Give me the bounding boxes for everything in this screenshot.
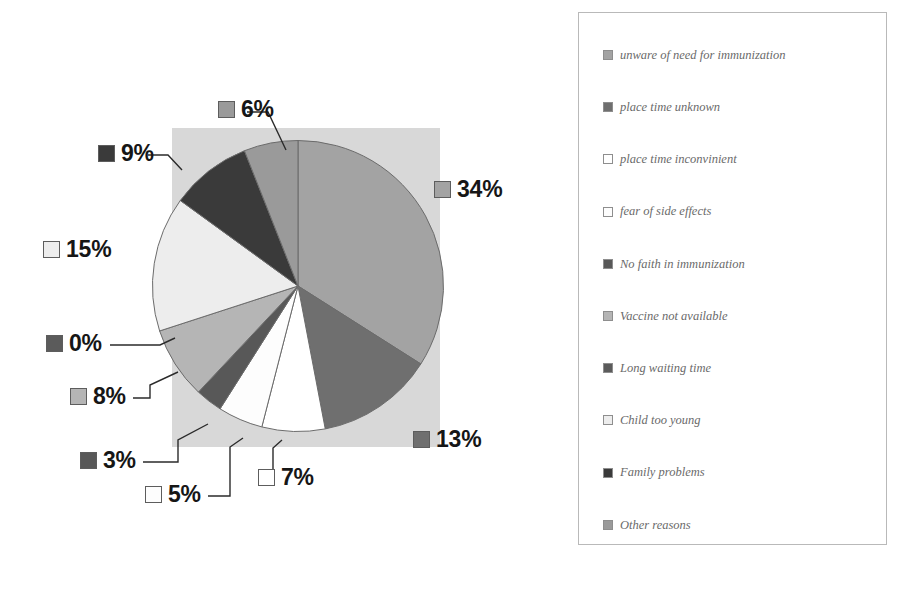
pie-label-swatch-15	[43, 241, 60, 258]
legend-item-label: fear of side effects	[620, 205, 711, 218]
pie-label-15: 15%	[43, 238, 111, 261]
legend-swatch-icon	[603, 468, 613, 478]
pie-label-swatch-13	[413, 431, 430, 448]
pie-label-6: 6%	[218, 98, 274, 121]
legend-item-label: place time inconvinient	[620, 153, 737, 166]
legend-item-label: Other reasons	[620, 519, 691, 532]
pie-chart	[152, 140, 444, 432]
legend-item[interactable]: Vaccine not available	[603, 290, 878, 342]
legend-item-label: Long waiting time	[620, 362, 711, 375]
legend-item-label: Child too young	[620, 414, 701, 427]
legend-swatch-icon	[603, 154, 613, 164]
pie-label-swatch-34	[434, 181, 451, 198]
pie-label-13: 13%	[413, 428, 481, 451]
legend-item-label: Family problems	[620, 466, 705, 479]
legend-item[interactable]: Other reasons	[603, 499, 878, 551]
pie-label-8: 8%	[70, 385, 126, 408]
legend-swatch-icon	[603, 363, 613, 373]
legend-swatch-icon	[603, 259, 613, 269]
legend-item[interactable]: Family problems	[603, 447, 878, 499]
legend-swatch-icon	[603, 415, 613, 425]
pie-label-swatch-7	[258, 469, 275, 486]
pie-label-9: 9%	[98, 142, 154, 165]
pie-label-swatch-0	[46, 335, 63, 352]
legend-item[interactable]: place time inconvinient	[603, 133, 878, 185]
pie-label-swatch-6	[218, 101, 235, 118]
pie-label-swatch-9	[98, 145, 115, 162]
legend-item-label: Vaccine not available	[620, 310, 728, 323]
pie-label-swatch-8	[70, 388, 87, 405]
legend-item-list: unware of need for immunizationplace tim…	[603, 29, 878, 551]
legend-swatch-icon	[603, 520, 613, 530]
legend-item[interactable]: fear of side effects	[603, 186, 878, 238]
pie-label-3: 3%	[80, 449, 136, 472]
legend-swatch-icon	[603, 50, 613, 60]
legend-item[interactable]: Child too young	[603, 394, 878, 446]
legend-item[interactable]: place time unknown	[603, 81, 878, 133]
legend-item-label: unware of need for immunization	[620, 49, 786, 62]
pie-chart-figure: 6% 9% 15% 0% 8% 3% 5% 7% 13% 34% unware …	[0, 0, 910, 592]
legend-item[interactable]: Long waiting time	[603, 342, 878, 394]
pie-label-swatch-5	[145, 486, 162, 503]
legend-swatch-icon	[603, 102, 613, 112]
legend: unware of need for immunizationplace tim…	[578, 12, 887, 545]
legend-swatch-icon	[603, 207, 613, 217]
pie-label-swatch-3	[80, 452, 97, 469]
pie-label-34: 34%	[434, 178, 502, 201]
legend-item[interactable]: No faith in immunization	[603, 238, 878, 290]
legend-item-label: place time unknown	[620, 101, 720, 114]
legend-item-label: No faith in immunization	[620, 258, 745, 271]
pie-label-5: 5%	[145, 483, 201, 506]
legend-swatch-icon	[603, 311, 613, 321]
pie-label-0: 0%	[46, 332, 102, 355]
pie-label-7: 7%	[258, 466, 314, 489]
legend-item[interactable]: unware of need for immunization	[603, 29, 878, 81]
